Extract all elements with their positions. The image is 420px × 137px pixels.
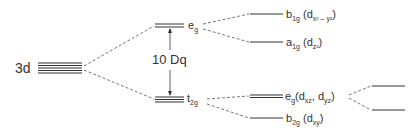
- label-eg: eg: [188, 20, 198, 31]
- label-10dq: 10 Dq: [151, 53, 188, 66]
- connectors-right: [349, 86, 371, 110]
- d4h-levels: [250, 14, 283, 118]
- label-t2g: t2g: [187, 93, 198, 104]
- label-b2g: b2g (dxy): [286, 113, 323, 124]
- 3d-levels: [38, 63, 82, 73]
- connectors-middle: [203, 14, 249, 118]
- connectors-left: [84, 26, 154, 99]
- label-b1g: b1g (dx² – y²): [286, 9, 336, 20]
- label-eg-dxz-dyz: eg(dxz, dyz): [285, 91, 335, 102]
- split-levels: [372, 86, 405, 110]
- t2g-levels: [155, 97, 184, 102]
- eg-levels: [155, 24, 184, 27]
- splitting-diagram: [0, 0, 420, 137]
- label-3d: 3d: [15, 61, 31, 75]
- label-a1g: a1g (dz²): [286, 37, 322, 48]
